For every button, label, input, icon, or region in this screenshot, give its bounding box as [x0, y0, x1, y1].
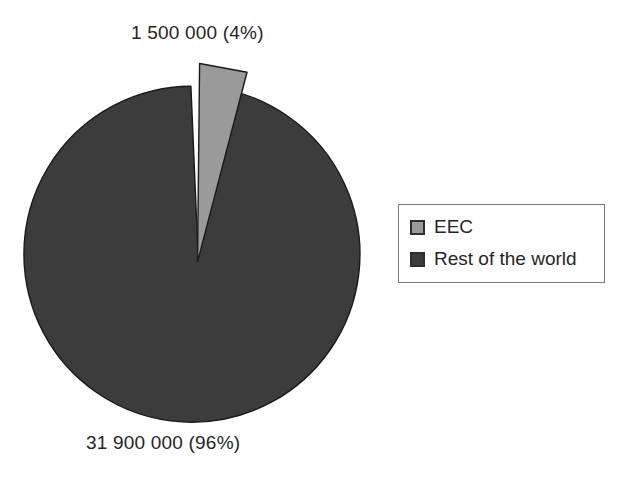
legend-label-rest-of-the-world: Rest of the world — [434, 249, 577, 269]
pie-slice-rest-of-the-world — [24, 86, 360, 422]
legend-label-eec: EEC — [434, 217, 473, 237]
legend-swatch-eec — [410, 220, 425, 235]
pie-svg — [0, 40, 400, 440]
legend-item-eec: EEC — [410, 215, 473, 239]
chart-legend: EEC Rest of the world — [398, 204, 605, 283]
pie-chart-figure: 1 500 000 (4%) 31 900 000 (96%) EEC Rest… — [0, 0, 640, 481]
legend-item-rest-of-the-world: Rest of the world — [410, 247, 577, 271]
legend-swatch-rest-of-the-world — [410, 252, 425, 267]
pie-graphic — [0, 40, 400, 440]
